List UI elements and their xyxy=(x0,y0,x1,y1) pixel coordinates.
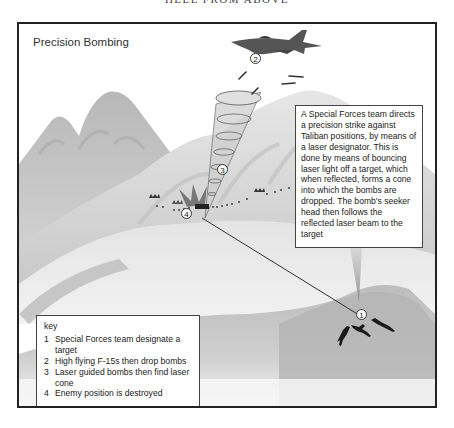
key-item-text: High flying F-15s then drop bombs xyxy=(55,356,186,367)
key-title: key xyxy=(44,321,192,332)
key-item: 3 Laser guided bombs then find laser con… xyxy=(44,367,192,389)
key-item-number: 1 xyxy=(44,334,55,356)
f15-jet-icon xyxy=(231,30,322,54)
key-item-text: Special Forces team designate a target xyxy=(55,334,192,356)
bomb-icon xyxy=(239,72,303,94)
key-item: 4 Enemy position is destroyed xyxy=(44,388,192,399)
key-item-number: 2 xyxy=(44,356,55,367)
key-item-text: Laser guided bombs then find laser cone xyxy=(55,367,192,389)
key-item: 1 Special Forces team designate a target xyxy=(44,334,192,356)
marker-1: 1 xyxy=(356,309,367,320)
description-callout: A Special Forces team directs a precisio… xyxy=(295,105,423,248)
key-legend: key 1 Special Forces team designate a ta… xyxy=(36,315,200,408)
key-item-number: 4 xyxy=(44,388,55,399)
running-head: HELL FROM ABOVE xyxy=(0,0,454,5)
marker-3: 3 xyxy=(217,164,228,175)
key-item-number: 3 xyxy=(44,367,55,389)
figure-frame: Precision Bombing A Special Forces team … xyxy=(17,22,437,408)
marker-4: 4 xyxy=(181,208,192,219)
key-item-text: Enemy position is destroyed xyxy=(55,388,162,399)
marker-2: 2 xyxy=(250,53,261,64)
figure-title: Precision Bombing xyxy=(33,36,129,48)
key-item: 2 High flying F-15s then drop bombs xyxy=(44,356,192,367)
